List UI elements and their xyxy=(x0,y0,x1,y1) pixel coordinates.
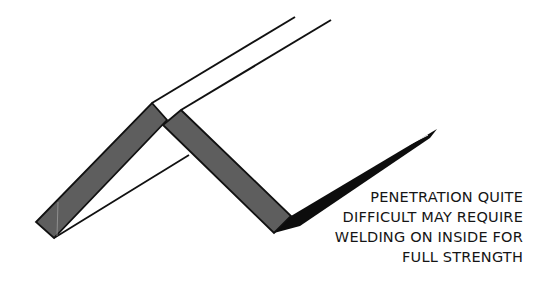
left-plate-top-edge xyxy=(152,17,295,103)
caption-line: PENETRATION QUITE xyxy=(335,187,523,207)
caption-line: FULL STRENGTH xyxy=(335,247,523,267)
left-plate-section xyxy=(36,103,167,238)
caption-line: DIFFICULT MAY REQUIRE xyxy=(335,207,523,227)
diagram-canvas: PENETRATION QUITE DIFFICULT MAY REQUIRE … xyxy=(0,0,551,282)
right-plate-top-edge xyxy=(181,20,331,110)
caption-line: WELDING ON INSIDE FOR xyxy=(335,227,523,247)
weld-note-caption: PENETRATION QUITE DIFFICULT MAY REQUIRE … xyxy=(335,187,523,267)
right-plate-section xyxy=(163,110,291,233)
